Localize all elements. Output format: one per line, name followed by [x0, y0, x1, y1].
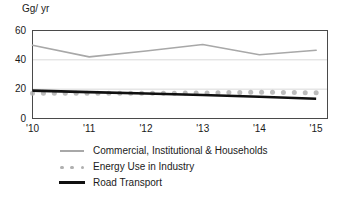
- series-group: [30, 44, 319, 98]
- thick-line-marker-icon: [58, 177, 86, 189]
- x-tick-label: '10: [18, 124, 48, 134]
- series-line-commercial: [33, 44, 317, 56]
- y-tick-label: 0: [6, 114, 26, 124]
- x-tick-label: '15: [301, 124, 331, 134]
- series-dot-industry: [281, 90, 286, 95]
- dotted-marker-icon: [58, 161, 86, 173]
- series-dot-industry: [314, 90, 319, 95]
- thin-line-marker-icon: [58, 145, 86, 157]
- y-tick-label: 60: [6, 26, 26, 36]
- series-dot-industry: [259, 90, 264, 95]
- legend-label-commercial: Commercial, Institutional & Households: [93, 145, 268, 157]
- x-tick-label: '12: [131, 124, 161, 134]
- legend-item-commercial: Commercial, Institutional & Households: [58, 143, 338, 159]
- emissions-line-chart: Gg/ yr 0204060 '10'11'12'13'14'15 Commer…: [0, 0, 343, 199]
- series-dot-industry: [237, 90, 242, 95]
- y-tick-label: 20: [6, 84, 26, 94]
- chart-legend: Commercial, Institutional & Households E…: [58, 143, 338, 191]
- x-tick-label: '14: [244, 124, 274, 134]
- series-dot-industry: [248, 90, 253, 95]
- legend-item-industry: Energy Use in Industry: [58, 159, 338, 175]
- gridlines-group: [33, 60, 328, 89]
- x-tick-label: '11: [74, 124, 104, 134]
- series-dot-industry: [303, 90, 308, 95]
- y-tick-label: 40: [6, 55, 26, 65]
- legend-label-industry: Energy Use in Industry: [93, 161, 194, 173]
- series-dot-industry: [292, 90, 297, 95]
- series-dot-industry: [270, 90, 275, 95]
- plot-border: [33, 31, 328, 119]
- series-dot-industry: [226, 90, 231, 95]
- plot-frame: [33, 31, 328, 119]
- x-tick-label: '13: [188, 124, 218, 134]
- legend-item-road: Road Transport: [58, 175, 338, 191]
- legend-label-road: Road Transport: [93, 177, 162, 189]
